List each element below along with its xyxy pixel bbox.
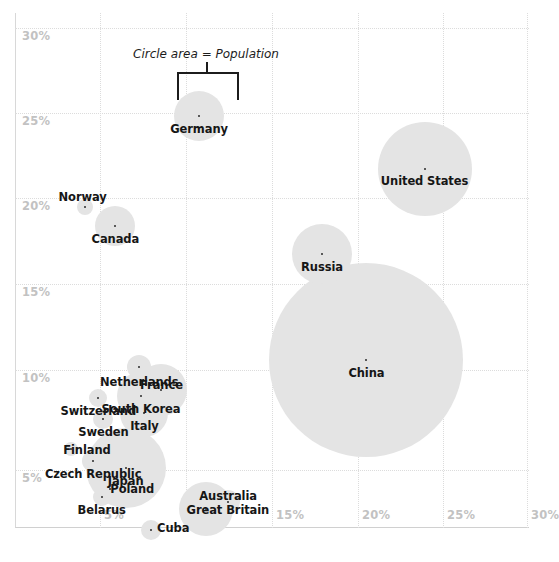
bubble-label-norway: Norway bbox=[59, 190, 107, 204]
bubble-label-germany: Germany bbox=[170, 122, 228, 136]
gridline-vertical bbox=[443, 13, 444, 528]
bubble-label-cuba: Cuba bbox=[157, 521, 189, 535]
x-tick-15pct: 15% bbox=[276, 508, 304, 522]
bubble-label-canada: Canada bbox=[92, 232, 140, 246]
gridline-vertical bbox=[272, 13, 273, 528]
annotation-label: Circle area = Population bbox=[133, 47, 279, 61]
bubble-label-united-states: United States bbox=[381, 174, 468, 188]
gridline-vertical bbox=[527, 13, 528, 528]
annotation-bracket-stem bbox=[206, 62, 208, 73]
datapoint-marker bbox=[97, 397, 99, 399]
datapoint-marker bbox=[150, 529, 152, 531]
x-tick-25pct: 25% bbox=[447, 508, 475, 522]
datapoint-marker bbox=[424, 168, 426, 170]
x-tick-30pct: 30% bbox=[531, 508, 559, 522]
datapoint-marker bbox=[365, 359, 367, 361]
y-tick-25pct: 25% bbox=[22, 114, 50, 128]
datapoint-marker bbox=[198, 115, 200, 117]
datapoint-marker bbox=[321, 253, 323, 255]
y-tick-10pct: 10% bbox=[22, 371, 50, 385]
bubble-label-great-britain: Great Britain bbox=[187, 503, 270, 517]
bubble-label-france: France bbox=[140, 378, 183, 392]
bubble-label-china: China bbox=[348, 366, 384, 380]
datapoint-marker bbox=[84, 206, 86, 208]
gridline-horizontal bbox=[15, 284, 529, 285]
datapoint-marker bbox=[102, 418, 104, 420]
gridline-horizontal bbox=[15, 113, 529, 114]
datapoint-marker bbox=[92, 460, 94, 462]
datapoint-marker bbox=[138, 366, 140, 368]
gridline-horizontal bbox=[15, 28, 529, 29]
bubble-label-australia: Australia bbox=[199, 489, 257, 503]
annotation-bracket bbox=[177, 72, 239, 100]
x-tick-20pct: 20% bbox=[362, 508, 390, 522]
datapoint-marker bbox=[101, 496, 103, 498]
bubble-label-finland: Finland bbox=[63, 443, 110, 457]
y-tick-15pct: 15% bbox=[22, 285, 50, 299]
bubble-label-poland: Poland bbox=[110, 482, 154, 496]
bubble-label-russia: Russia bbox=[301, 260, 343, 274]
y-tick-30pct: 30% bbox=[22, 29, 50, 43]
bubble-label-sweden: Sweden bbox=[78, 425, 128, 439]
bubble-label-south-korea: South Korea bbox=[102, 402, 181, 416]
bubble-label-belarus: Belarus bbox=[78, 503, 126, 517]
bubble-label-czech-republic: Czech Republic bbox=[45, 467, 142, 481]
y-tick-20pct: 20% bbox=[22, 199, 50, 213]
datapoint-marker bbox=[140, 395, 142, 397]
bubble-label-italy: Italy bbox=[130, 419, 158, 433]
y-tick-5pct: 5% bbox=[22, 471, 42, 485]
datapoint-marker bbox=[114, 225, 116, 227]
